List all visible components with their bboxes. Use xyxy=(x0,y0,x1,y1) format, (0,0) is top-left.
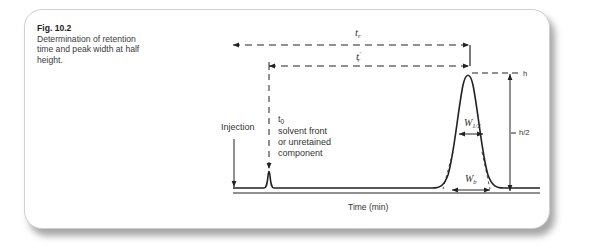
h-label: h xyxy=(523,69,527,78)
h-half-label: h/2 xyxy=(519,128,529,137)
tr-prime-label: t′r xyxy=(356,50,361,64)
w-b-label: Wb xyxy=(465,173,477,185)
t0-label: t0 xyxy=(278,114,285,125)
tangent-right xyxy=(482,152,490,189)
t0-description-line1: solvent front xyxy=(278,126,328,136)
injection-label: Injection xyxy=(221,122,255,132)
x-axis-label: Time (min) xyxy=(348,202,388,212)
tr-label: tr xyxy=(355,26,361,40)
chromatogram-diagram: tr t′r h h/2 Injection t0 solvent front … xyxy=(0,0,611,248)
t0-description-line3: component xyxy=(278,148,323,158)
t0-description-line2: or unretained xyxy=(278,137,331,147)
